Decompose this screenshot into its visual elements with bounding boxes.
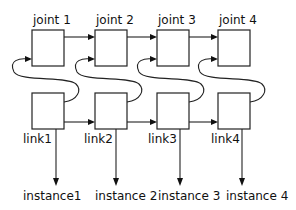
instance-label-4: instance 4	[226, 189, 288, 203]
instance-label-3: instance 3	[158, 189, 220, 203]
joint-box-4	[218, 30, 250, 66]
link-label-4: link4	[211, 132, 240, 146]
joint-link-diagram: joint 1 joint 2 joint 3 joint 4 link1 li…	[0, 0, 296, 210]
link-label-3: link3	[148, 132, 177, 146]
joint-box-1	[32, 30, 64, 66]
link-box-4	[218, 93, 250, 129]
joint-label-2: joint 2	[95, 13, 134, 27]
link-box-3	[157, 93, 189, 129]
instance-label-1: instance1	[23, 189, 81, 203]
link-label-2: link2	[84, 132, 113, 146]
link-label-1: link1	[23, 132, 52, 146]
joint-label-1: joint 1	[32, 13, 71, 27]
joint-chain-arrows	[64, 34, 218, 40]
link-box-1	[32, 93, 64, 129]
joint-label-4: joint 4	[218, 13, 257, 27]
link-box-2	[95, 93, 127, 129]
joint-box-3	[157, 30, 189, 66]
link-chain-arrows	[64, 119, 218, 125]
joint-box-2	[95, 30, 127, 66]
instance-label-2: instance 2	[95, 189, 157, 203]
joint-label-3: joint 3	[157, 13, 196, 27]
